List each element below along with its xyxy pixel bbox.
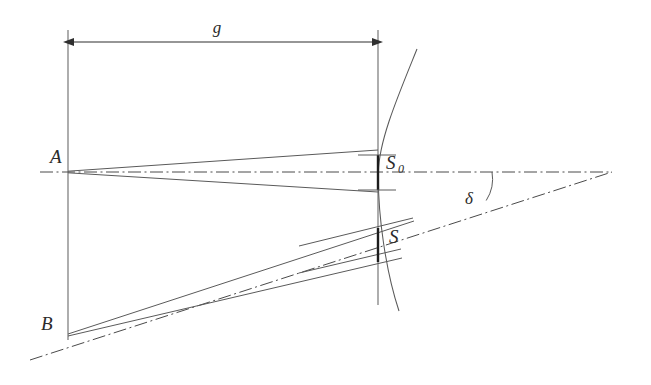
- diagram-canvas: g A S 0 S B δ: [0, 0, 651, 385]
- dimension-label-g: g: [213, 18, 222, 37]
- background-plate: [0, 0, 651, 385]
- label-point-s0-subscript: 0: [398, 162, 404, 176]
- label-point-s: S: [389, 226, 399, 247]
- optical-ray-diagram: g A S 0 S B δ: [0, 0, 651, 385]
- label-point-s0-base: S: [386, 152, 396, 173]
- label-point-b: B: [41, 313, 53, 334]
- label-angle-delta: δ: [465, 189, 474, 208]
- label-point-a: A: [48, 146, 62, 167]
